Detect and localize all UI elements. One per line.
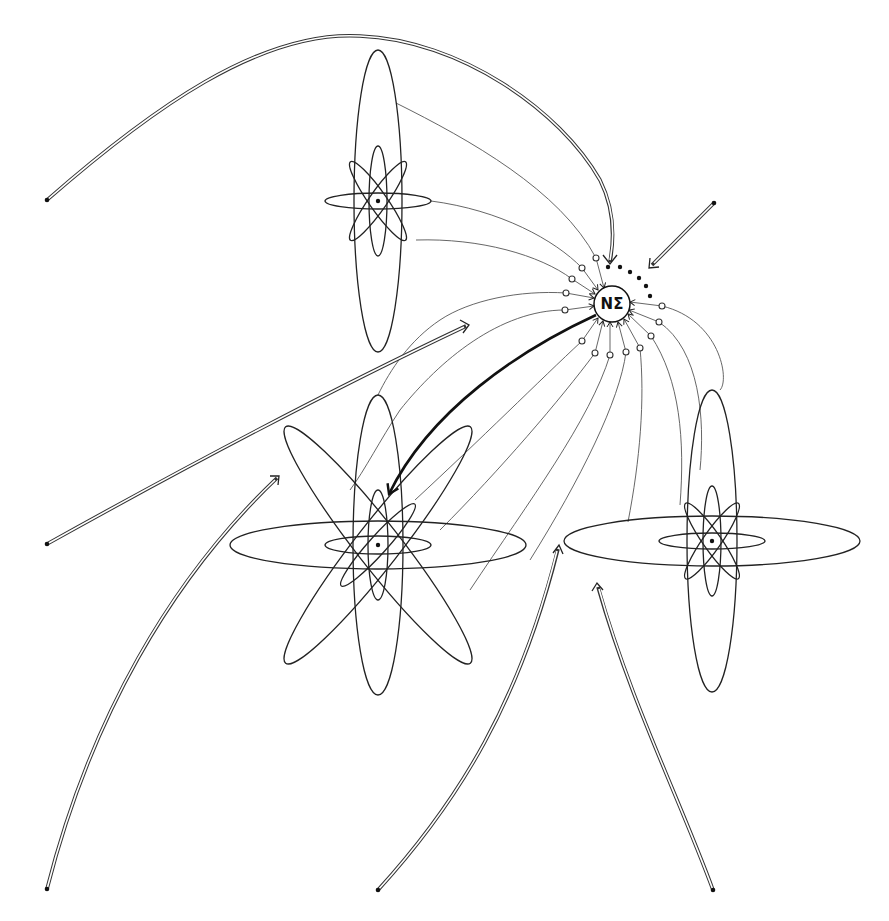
arrow-bottom-right [592, 583, 715, 892]
arrow-bottom-left [45, 476, 279, 891]
atom-bottom-left [230, 395, 526, 695]
arrow-top-arc [45, 36, 617, 264]
nucleus-dot [376, 543, 380, 547]
thick-arrow-output [389, 315, 596, 494]
links-to-bottom-left-atom [350, 292, 626, 590]
nucleus-dot [710, 539, 714, 543]
nucleus-dot [376, 199, 380, 203]
atom-right [564, 390, 860, 692]
arrow-bottom-middle [376, 545, 563, 892]
nucleus-label: NΣ [594, 293, 630, 315]
arrow-left-middle [45, 320, 469, 546]
diagram-canvas: NΣ [0, 0, 889, 921]
arrow-right-diagonal [649, 201, 716, 268]
atom-top-left [325, 50, 431, 352]
